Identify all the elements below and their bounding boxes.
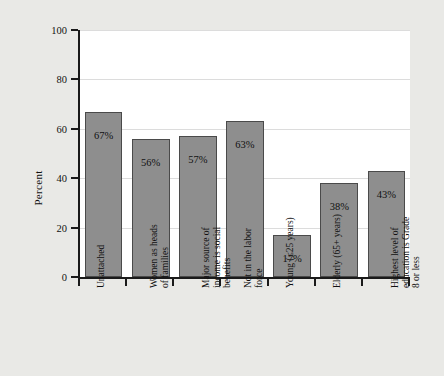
x-label-line: Highest level of: [390, 217, 401, 288]
x-tick-mark: [408, 279, 410, 286]
x-label-line: Major source of: [201, 227, 212, 288]
x-label-line: Women as heads: [149, 224, 160, 288]
bar-value-label: 56%: [132, 157, 170, 168]
x-axis-category-label: Women as headsof families: [149, 224, 170, 288]
x-label-line: Elderly (65+ years): [332, 214, 343, 288]
y-tick-label: 20: [57, 222, 68, 233]
x-axis-category-label: Elderly (65+ years): [332, 214, 343, 288]
x-tick-mark: [267, 279, 269, 286]
y-tick-mark: [71, 227, 78, 229]
x-axis-category-label: Highest level ofeducation is Grade8 or l…: [390, 217, 422, 288]
x-label-line: education is Grade: [400, 217, 411, 288]
x-tick-mark: [78, 279, 80, 286]
x-label-line: of families: [159, 224, 170, 288]
y-tick-mark: [71, 276, 78, 278]
y-axis-title: Percent: [32, 170, 44, 205]
bar-value-label: 38%: [320, 201, 358, 212]
y-tick-label: 40: [57, 173, 68, 184]
x-axis-category-label: Young (≤25 years): [285, 217, 296, 288]
y-tick-mark: [71, 177, 78, 179]
bar-value-label: 57%: [179, 154, 217, 165]
y-tick-mark: [71, 29, 78, 31]
y-tick-mark: [71, 128, 78, 130]
y-tick-label: 60: [57, 123, 68, 134]
y-tick-label: 0: [62, 272, 67, 283]
x-label-line: benefits: [222, 227, 233, 288]
x-tick-mark: [172, 279, 174, 286]
x-label-line: Unattached: [96, 245, 107, 288]
bar-value-label: 43%: [368, 189, 406, 200]
x-label-line: 8 or less: [411, 217, 422, 288]
x-label-line: force: [254, 228, 265, 288]
y-tick-mark: [71, 78, 78, 80]
x-axis-category-label: Major source ofincome is socialbenefits: [201, 227, 233, 288]
x-tick-mark: [361, 279, 363, 286]
x-tick-mark: [125, 279, 127, 286]
y-tick-label: 100: [51, 25, 67, 36]
x-tick-mark: [219, 279, 221, 286]
x-axis-category-label: Unattached: [96, 245, 107, 288]
x-axis-category-label: Not in the laborforce: [243, 228, 264, 288]
bar-value-label: 67%: [85, 130, 123, 141]
x-tick-mark: [314, 279, 316, 286]
x-label-line: Not in the labor: [243, 228, 254, 288]
bar-value-label: 63%: [226, 139, 264, 150]
chart-page: Percent 67%56%57%63%17%38%43% 0204060801…: [0, 0, 444, 376]
x-label-line: Young (≤25 years): [285, 217, 296, 288]
y-tick-label: 80: [57, 74, 68, 85]
